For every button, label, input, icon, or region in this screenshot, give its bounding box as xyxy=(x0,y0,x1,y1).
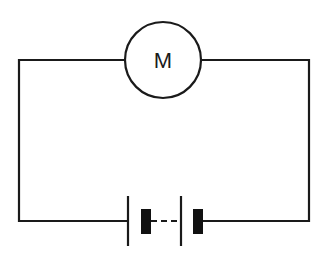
right-wire xyxy=(201,60,309,221)
motor-label: M xyxy=(154,48,172,73)
battery xyxy=(128,196,203,246)
circuit-diagram: M xyxy=(0,0,330,254)
battery-negative-plate-2 xyxy=(193,209,203,234)
motor: M xyxy=(125,22,201,98)
battery-negative-plate-1 xyxy=(141,209,151,234)
left-wire xyxy=(19,60,128,221)
